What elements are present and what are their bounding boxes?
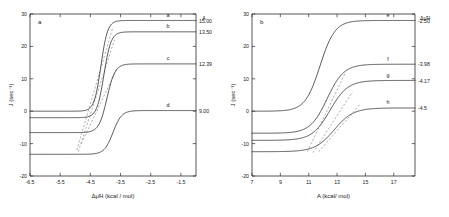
- y-tick-label: 10: [243, 76, 249, 82]
- x-tick-label: -2.5: [146, 179, 155, 185]
- y-tick-label: 0: [24, 108, 27, 114]
- y-tick-label: -20: [20, 173, 28, 179]
- tangent-line: [307, 72, 345, 151]
- panel-a-plot: -6.5-5.5-4.5-3.5-2.5-1.5-20-100102030a15…: [0, 0, 224, 217]
- x-tick-label: -5.5: [56, 179, 65, 185]
- chart-panel-b: 7911131517-20-100102030e-2.50f-3.98g-4.1…: [225, 0, 449, 217]
- x-axis-title: A (kcal/ mol): [317, 193, 350, 199]
- y-tick-label: -10: [242, 141, 250, 147]
- tangent-line: [78, 40, 114, 152]
- curve-value-label: 9.00: [199, 108, 209, 114]
- curve-letter-label: b: [167, 23, 170, 29]
- data-curve: [30, 20, 196, 111]
- curve-letter-label: f: [387, 56, 389, 62]
- tangent-line: [319, 105, 360, 152]
- x-tick-label: -1.5: [176, 179, 185, 185]
- data-curve: [252, 108, 415, 152]
- x-tick-label: 11: [306, 179, 311, 185]
- legend-column-header: A: [202, 15, 206, 21]
- curve-value-label: 13.50: [199, 29, 212, 35]
- x-tick-label: 15: [363, 179, 369, 185]
- y-tick-label: 20: [243, 43, 249, 49]
- curve-value-label: -4.17: [418, 78, 430, 84]
- panel-letter: a: [38, 18, 42, 25]
- curve-value-label: -4.5: [418, 105, 427, 111]
- chart-panel-a: -6.5-5.5-4.5-3.5-2.5-1.5-20-100102030a15…: [0, 0, 224, 217]
- data-curve: [252, 64, 415, 133]
- curve-letter-label: c: [167, 55, 170, 61]
- x-tick-label: 13: [334, 179, 340, 185]
- x-tick-label: -4.5: [86, 179, 95, 185]
- curve-letter-label: g: [387, 72, 390, 78]
- curve-value-label: -3.98: [418, 61, 430, 67]
- x-tick-label: 9: [279, 179, 282, 185]
- data-curve: [252, 80, 415, 140]
- y-tick-label: 20: [21, 43, 27, 49]
- y-axis-title: J (sec⁻¹): [8, 84, 14, 107]
- curve-letter-label: h: [387, 99, 390, 105]
- y-tick-label: 30: [21, 11, 27, 17]
- curve-letter-label: d: [167, 102, 170, 108]
- curve-value-label: 12.39: [199, 61, 212, 67]
- x-tick-label: -3.5: [116, 179, 125, 185]
- y-tick-label: -20: [242, 173, 250, 179]
- figure-container: -6.5-5.5-4.5-3.5-2.5-1.5-20-100102030a15…: [0, 0, 449, 217]
- y-tick-label: -10: [20, 141, 28, 147]
- curve-letter-label: a: [167, 12, 170, 18]
- y-tick-label: 30: [243, 11, 249, 17]
- y-axis-title: J (sec⁻¹): [230, 84, 236, 107]
- panel-b-plot: 7911131517-20-100102030e-2.50f-3.98g-4.1…: [225, 0, 449, 217]
- data-curve: [30, 64, 196, 133]
- curve-letter-label: e: [387, 12, 390, 18]
- x-tick-label: -6.5: [26, 179, 35, 185]
- y-tick-label: 10: [21, 76, 27, 82]
- x-tick-label: 7: [251, 179, 254, 185]
- panel-letter: b: [260, 18, 264, 25]
- legend-column-header: Δμ̃H: [420, 15, 430, 21]
- tangent-line: [313, 92, 353, 153]
- x-axis-title: Δμ̃H (kcal / mol): [92, 193, 135, 199]
- y-tick-label: 0: [246, 108, 249, 114]
- x-tick-label: 17: [391, 179, 397, 185]
